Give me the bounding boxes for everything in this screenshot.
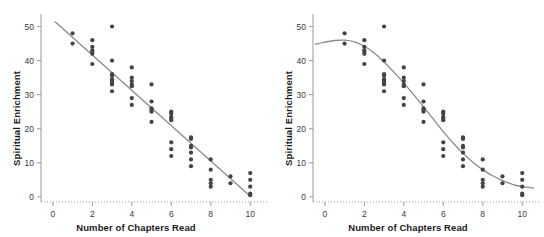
- data-point: [228, 181, 232, 185]
- x-tick-label: 6: [441, 209, 446, 219]
- data-point: [70, 31, 74, 35]
- data-point: [520, 185, 524, 189]
- data-point: [481, 168, 485, 172]
- y-tick-label: 30: [25, 90, 35, 100]
- data-point: [441, 118, 445, 122]
- data-point: [402, 103, 406, 107]
- data-point: [189, 137, 193, 141]
- data-point: [248, 171, 252, 175]
- x-tick-label: 10: [245, 209, 255, 219]
- y-tick-label: 50: [297, 22, 307, 32]
- data-point: [90, 62, 94, 66]
- data-point: [70, 41, 74, 45]
- x-tick-label: 2: [90, 209, 95, 219]
- data-point: [520, 178, 524, 182]
- data-point: [189, 145, 193, 149]
- data-point: [189, 150, 193, 154]
- data-point: [500, 181, 504, 185]
- data-point: [110, 24, 114, 28]
- data-point: [130, 96, 134, 100]
- x-axis-label: Number of Chapters Read: [0, 222, 272, 233]
- data-point: [149, 99, 153, 103]
- data-point: [110, 82, 114, 86]
- chart-panel-right: Spiritual Enrichment 010203040500246810 …: [272, 0, 544, 237]
- y-tick-label: 40: [25, 56, 35, 66]
- data-point: [209, 168, 213, 172]
- data-point: [90, 38, 94, 42]
- x-tick-label: 0: [50, 209, 55, 219]
- y-tick-label: 10: [297, 158, 307, 168]
- data-point: [362, 38, 366, 42]
- data-point: [481, 185, 485, 189]
- data-point: [441, 147, 445, 151]
- y-tick-label: 20: [297, 124, 307, 134]
- data-point: [169, 154, 173, 158]
- data-point: [149, 110, 153, 114]
- data-point: [130, 65, 134, 69]
- y-tick-label: 0: [301, 192, 306, 202]
- x-tick-label: 0: [322, 209, 327, 219]
- data-point: [461, 145, 465, 149]
- data-point: [481, 157, 485, 161]
- x-tick-label: 2: [362, 209, 367, 219]
- data-point: [189, 157, 193, 161]
- data-point: [461, 164, 465, 168]
- y-tick-label: 50: [25, 22, 35, 32]
- x-tick-label: 8: [480, 209, 485, 219]
- x-axis-label: Number of Chapters Read: [272, 222, 544, 233]
- data-point: [421, 82, 425, 86]
- data-point: [248, 193, 252, 197]
- data-point: [500, 174, 504, 178]
- data-point: [90, 52, 94, 56]
- x-tick-label: 4: [129, 209, 134, 219]
- data-point: [382, 89, 386, 93]
- data-point: [110, 89, 114, 93]
- plot-area-right: 010203040500246810: [272, 0, 544, 237]
- scatterplot-figure: Spiritual Enrichment 010203040500246810 …: [0, 0, 544, 237]
- data-point: [149, 120, 153, 124]
- data-point: [342, 41, 346, 45]
- data-point: [228, 174, 232, 178]
- data-point: [520, 171, 524, 175]
- data-point: [169, 140, 173, 144]
- data-point: [421, 99, 425, 103]
- data-point: [130, 84, 134, 88]
- x-tick-label: 6: [169, 209, 174, 219]
- y-tick-label: 30: [297, 90, 307, 100]
- data-point: [209, 157, 213, 161]
- data-point: [520, 193, 524, 197]
- data-point: [441, 140, 445, 144]
- y-tick-label: 10: [25, 158, 35, 168]
- data-point: [382, 58, 386, 62]
- data-point: [382, 24, 386, 28]
- data-point: [421, 120, 425, 124]
- x-tick-label: 8: [208, 209, 213, 219]
- data-point: [382, 82, 386, 86]
- data-point: [169, 118, 173, 122]
- data-point: [362, 52, 366, 56]
- chart-panel-left: Spiritual Enrichment 010203040500246810 …: [0, 0, 272, 237]
- data-point: [130, 103, 134, 107]
- data-point: [461, 137, 465, 141]
- data-point: [149, 82, 153, 86]
- data-point: [402, 96, 406, 100]
- x-tick-label: 4: [401, 209, 406, 219]
- data-point: [209, 185, 213, 189]
- y-tick-label: 20: [25, 124, 35, 134]
- data-point: [421, 110, 425, 114]
- data-point: [441, 154, 445, 158]
- data-points: [70, 24, 252, 197]
- y-tick-label: 0: [29, 192, 34, 202]
- data-point: [402, 84, 406, 88]
- x-tick-label: 10: [517, 209, 527, 219]
- x-axis-label-text: Number of Chapters Read: [348, 222, 468, 233]
- fit-curve: [315, 40, 534, 188]
- data-point: [342, 31, 346, 35]
- data-point: [362, 62, 366, 66]
- data-point: [248, 178, 252, 182]
- data-point: [461, 157, 465, 161]
- plot-area-left: 010203040500246810: [0, 0, 272, 237]
- data-point: [169, 147, 173, 151]
- data-point: [110, 58, 114, 62]
- data-point: [248, 185, 252, 189]
